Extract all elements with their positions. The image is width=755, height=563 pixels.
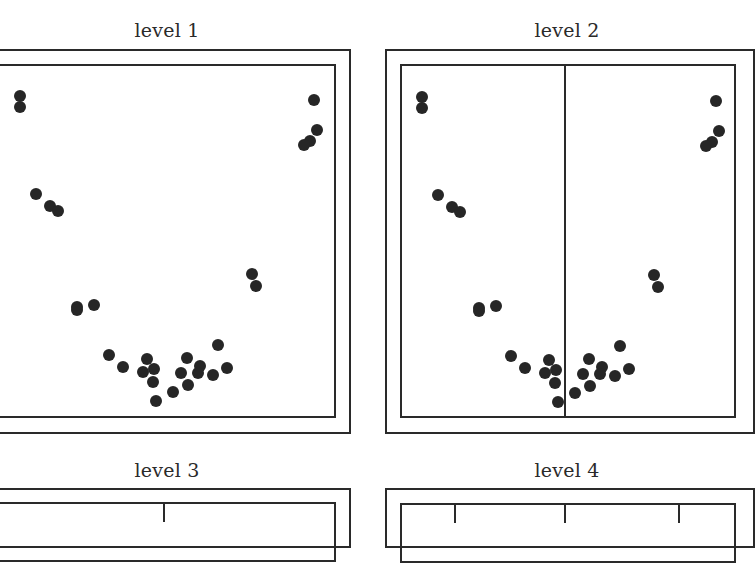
data-point [594, 368, 606, 380]
data-point [583, 353, 595, 365]
data-point [584, 380, 596, 392]
data-point [519, 362, 531, 374]
data-point [577, 368, 589, 380]
data-point [490, 300, 502, 312]
data-point [609, 370, 621, 382]
data-point [713, 125, 725, 137]
data-point [549, 377, 561, 389]
data-point [614, 340, 626, 352]
data-point [648, 269, 660, 281]
data-point [652, 281, 664, 293]
data-point [416, 102, 428, 114]
data-point [432, 189, 444, 201]
data-point [552, 396, 564, 408]
data-point [569, 387, 581, 399]
data-point [505, 350, 517, 362]
data-point [550, 364, 562, 376]
data-point [473, 305, 485, 317]
data-point [710, 95, 722, 107]
data-point [454, 206, 466, 218]
data-point [623, 363, 635, 375]
data-point [700, 140, 712, 152]
